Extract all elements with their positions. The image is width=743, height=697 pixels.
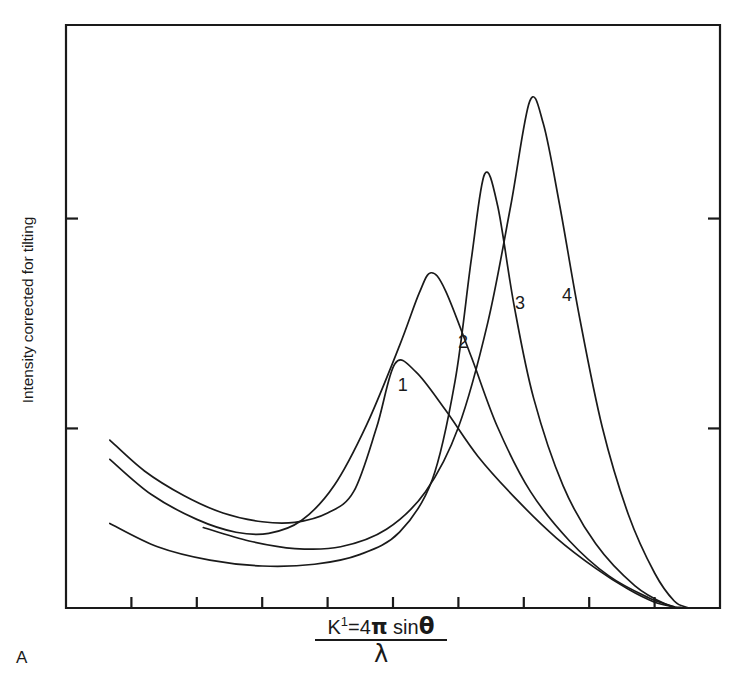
curve-4 [203, 97, 687, 608]
panel-label: A [16, 648, 27, 668]
y-axis-ticks-right [708, 219, 720, 429]
figure-panel: Intensity corrected for tilting K1=4π si… [0, 0, 743, 697]
curve-group [110, 97, 687, 608]
curve-3 [110, 172, 681, 607]
y-axis-ticks-left [66, 219, 78, 429]
x-axis-ticks [131, 597, 654, 608]
curve-1 [110, 360, 674, 607]
plot-canvas [0, 0, 743, 697]
axis-frame [66, 25, 720, 608]
